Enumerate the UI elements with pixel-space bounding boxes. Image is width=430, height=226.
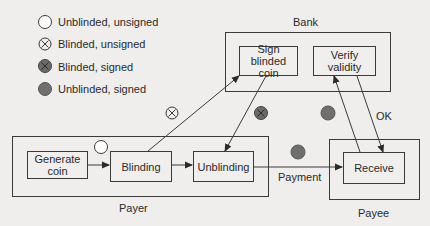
diagram: Unblinded, unsigned Blinded, unsigned Bl… xyxy=(0,0,430,226)
legend-dark-circle-icon xyxy=(39,83,52,96)
sign-blinded-coin-node: Sign blinded coin xyxy=(239,46,298,76)
generate-node-line1: Generate xyxy=(35,153,81,165)
ok-edge-label: OK xyxy=(376,110,392,122)
payer-label: Payer xyxy=(119,202,148,214)
sign-node-line2: blinded coin xyxy=(240,55,297,79)
unblinding-node: Unblinding xyxy=(193,151,254,182)
blinding-node: Blinding xyxy=(110,151,172,182)
verify-node-line1: Verify xyxy=(328,49,362,61)
coin-dark-circle-icon xyxy=(321,106,335,120)
receive-node: Receive xyxy=(343,152,405,184)
legend-label-unblinded-unsigned: Unblinded, unsigned xyxy=(58,16,158,28)
verify-validity-node: Verify validity xyxy=(313,46,376,76)
verify-node-line2: validity xyxy=(328,61,362,73)
sign-node-line1: Sign xyxy=(240,43,297,55)
legend-dark-x-circle-icon xyxy=(39,60,52,73)
legend-open-circle-icon xyxy=(39,16,52,29)
payee-label: Payee xyxy=(358,207,389,219)
blinding-node-label: Blinding xyxy=(121,161,160,173)
coin-payment-dark-circle-icon xyxy=(291,145,305,159)
bank-label: Bank xyxy=(293,16,318,28)
unblinding-node-label: Unblinding xyxy=(198,161,250,173)
generate-coin-node: Generate coin xyxy=(27,151,88,179)
legend-label-blinded-signed: Blinded, signed xyxy=(58,61,133,73)
legend-x-circle-icon xyxy=(39,38,51,50)
legend-label-blinded-unsigned: Blinded, unsigned xyxy=(58,38,145,50)
payment-edge-label: Payment xyxy=(278,171,321,183)
coin-x-circle-icon xyxy=(166,107,178,119)
legend-label-unblinded-signed: Unblinded, signed xyxy=(58,83,146,95)
receive-node-label: Receive xyxy=(354,162,394,174)
coin-dark-x-circle-icon xyxy=(255,107,268,120)
generate-node-line2: coin xyxy=(35,165,81,177)
